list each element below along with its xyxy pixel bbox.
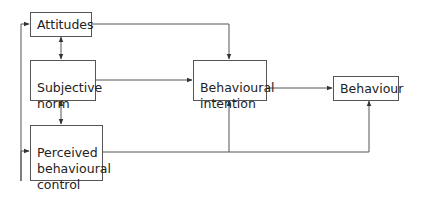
node-perceived-behavioural-control: Perceived behavioural control — [30, 125, 103, 181]
node-behaviour-label: Behaviour — [340, 81, 403, 97]
node-behavioural-intention: Behavioural intention — [193, 60, 267, 101]
node-behaviour: Behaviour — [333, 76, 399, 101]
node-attitudes: Attitudes — [30, 12, 92, 37]
node-subjective-norm: Subjective norm — [30, 60, 96, 101]
arrow-attitudes-intention — [92, 24, 229, 59]
node-attitudes-label: Attitudes — [37, 17, 94, 33]
bracket-attitudes-pbc — [21, 24, 29, 181]
